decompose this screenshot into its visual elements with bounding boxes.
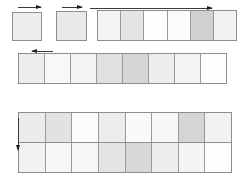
arrow-head-right-icon xyxy=(207,6,213,10)
block-cell xyxy=(205,113,231,142)
dimension-arrow-square-1 xyxy=(18,3,41,10)
block-cell xyxy=(144,11,167,40)
arrow-head-left-icon xyxy=(31,49,37,53)
block-cell xyxy=(99,113,126,142)
arrow-shaft xyxy=(90,8,212,9)
block-row xyxy=(19,142,231,172)
block-cell xyxy=(19,143,46,172)
block-cell xyxy=(97,54,123,83)
block-cell xyxy=(201,54,226,83)
top-strip-block xyxy=(97,10,237,41)
block-cell xyxy=(126,113,153,142)
block-cell xyxy=(175,54,201,83)
block-cell xyxy=(98,11,121,40)
block-cell xyxy=(71,54,97,83)
block-cell xyxy=(19,113,46,142)
standalone-square-second xyxy=(56,11,87,41)
diagram-canvas xyxy=(0,0,244,180)
block-cell xyxy=(46,113,73,142)
block-cell xyxy=(149,54,175,83)
block-cell xyxy=(191,11,214,40)
middle-strip-block xyxy=(18,53,227,84)
block-cell xyxy=(46,143,73,172)
block-cell xyxy=(99,143,126,172)
block-row xyxy=(19,113,231,142)
block-cell xyxy=(205,143,231,172)
arrow-head-right-icon xyxy=(36,5,42,9)
arrow-head-down-icon xyxy=(16,145,20,151)
block-cell xyxy=(179,143,206,172)
block-row xyxy=(98,11,236,40)
block-cell xyxy=(72,143,99,172)
standalone-square-left xyxy=(12,12,42,41)
block-cell xyxy=(152,143,179,172)
block-row xyxy=(19,54,226,83)
block-cell xyxy=(123,54,149,83)
block-cell xyxy=(126,143,153,172)
block-cell xyxy=(121,11,144,40)
arrow-head-right-icon xyxy=(77,5,83,9)
block-cell xyxy=(168,11,191,40)
dimension-arrow-square-2 xyxy=(62,3,82,10)
block-cell xyxy=(214,11,236,40)
block-cell xyxy=(72,113,99,142)
block-cell xyxy=(45,54,71,83)
dimension-arrow-middle-block xyxy=(32,47,53,54)
block-cell xyxy=(19,54,45,83)
bottom-double-row-block xyxy=(18,112,232,173)
dimension-arrow-bottom-block-vertical xyxy=(14,118,21,150)
dimension-arrow-top-block xyxy=(90,4,212,11)
block-cell xyxy=(152,113,179,142)
block-cell xyxy=(179,113,206,142)
